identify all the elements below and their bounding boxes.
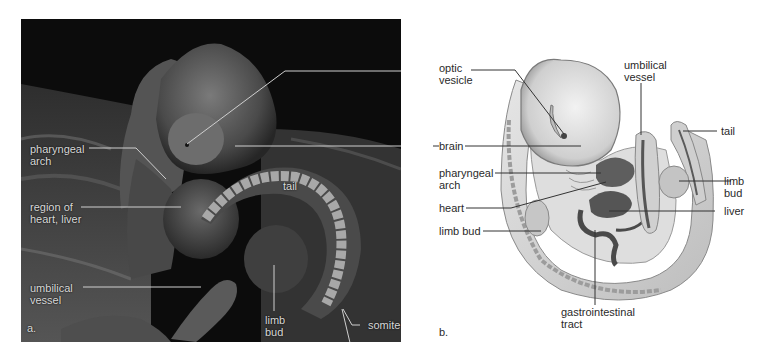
label-gastrointestinal-tract: gastrointestinal tract [561,306,635,330]
label-pharyngeal-arch-b: pharyngeal arch [439,167,495,191]
label-limb-bud-a: limb bud [265,314,285,338]
label-heart: heart [439,202,466,214]
panel-b-illustration: optic vesicle brain pharyngeal arch hear… [401,0,763,356]
label-somite: somite [368,319,400,331]
panel-b-letter: b. [439,326,448,338]
label-umbilical-vessel-b: umbilical vessel [624,59,667,83]
embryo-micrograph-image [21,19,401,342]
label-brain: brain [439,140,465,152]
label-liver: liver [724,205,744,217]
label-limb-bud-left: limb bud [439,225,483,237]
label-limb-bud-right: limb bud [724,175,763,199]
panel-a-letter: a. [27,322,36,334]
label-umbilical-vessel-a: umbilical vessel [30,282,73,306]
label-optic-vesicle: optic vesicle [439,62,473,86]
label-pharyngeal-arch-a: pharyngeal arch [30,143,84,167]
label-tail-a: tail [283,180,297,192]
label-tail-b: tail [721,125,735,137]
label-region-heart-liver: region of heart, liver [30,201,81,225]
panel-a-micrograph: pharyngeal arch region of heart, liver u… [21,19,401,342]
